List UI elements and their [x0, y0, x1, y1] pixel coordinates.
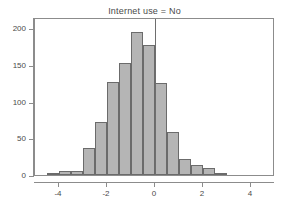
- y-axis-tick-label: 200: [0, 24, 26, 33]
- x-axis-tick: [106, 182, 107, 187]
- histogram-bar: [131, 32, 143, 175]
- x-axis-tick: [58, 182, 59, 187]
- x-axis-tick-label: 4: [240, 189, 260, 198]
- histogram-bar: [59, 171, 71, 175]
- y-axis-tick-label: 0: [0, 171, 26, 180]
- histogram-bar: [107, 82, 119, 175]
- histogram-bar: [143, 45, 155, 175]
- histogram-bar: [71, 171, 83, 175]
- histogram-bar: [179, 159, 191, 175]
- bars-layer: [35, 19, 273, 175]
- histogram-bar: [203, 168, 215, 175]
- chart-title: Internet use = No: [0, 6, 289, 16]
- x-axis-tick: [250, 182, 251, 187]
- x-axis-tick: [154, 182, 155, 187]
- histogram-bar: [119, 63, 131, 175]
- x-axis-tick-label: -4: [48, 189, 68, 198]
- histogram-bar: [155, 83, 167, 175]
- histogram-bar: [167, 132, 179, 175]
- x-axis-tick-label: 0: [144, 189, 164, 198]
- histogram-bar: [191, 165, 203, 175]
- histogram-bar: [83, 148, 95, 175]
- histogram-bar: [215, 173, 227, 175]
- y-axis-line: [33, 18, 34, 176]
- y-axis-tick: [29, 139, 34, 140]
- histogram-figure: Internet use = No 050100150200 -4-2024: [0, 0, 289, 219]
- plot-area: [34, 18, 274, 176]
- y-axis-tick-label: 150: [0, 61, 26, 70]
- y-axis-tick: [29, 66, 34, 67]
- histogram-bar: [95, 122, 107, 175]
- x-axis-tick-label: -2: [96, 189, 116, 198]
- y-axis-tick-label: 50: [0, 134, 26, 143]
- x-axis-tick-label: 2: [192, 189, 212, 198]
- zero-reference-line: [155, 19, 156, 175]
- x-axis-tick: [202, 182, 203, 187]
- y-axis-tick: [29, 176, 34, 177]
- y-axis-tick-label: 100: [0, 98, 26, 107]
- y-axis-tick: [29, 29, 34, 30]
- histogram-bar: [47, 173, 59, 175]
- y-axis-tick: [29, 103, 34, 104]
